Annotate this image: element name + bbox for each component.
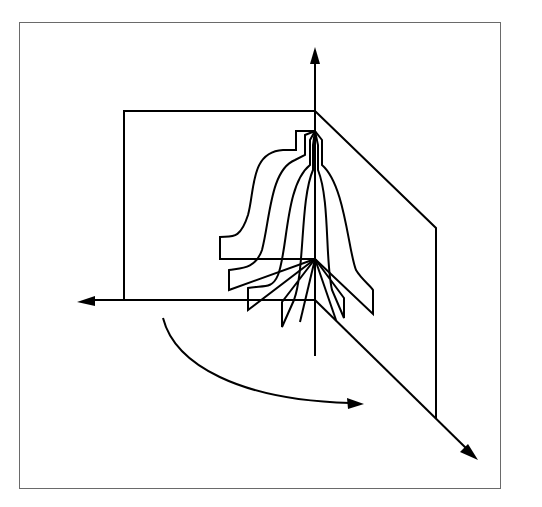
left-axis xyxy=(77,296,315,306)
rotation-arrow[interactable] xyxy=(163,318,364,409)
back-plane xyxy=(124,111,315,300)
arrow-left-icon xyxy=(77,296,95,306)
vertical-axis xyxy=(310,47,320,356)
arrow-rotation-icon xyxy=(347,398,364,409)
diagonal-axis xyxy=(315,300,478,460)
revolved-bell-diagram xyxy=(0,0,542,507)
bell-profiles xyxy=(220,131,373,327)
arrow-up-icon xyxy=(310,47,320,64)
arrow-diagonal-icon xyxy=(460,444,478,460)
side-plane xyxy=(315,111,436,418)
